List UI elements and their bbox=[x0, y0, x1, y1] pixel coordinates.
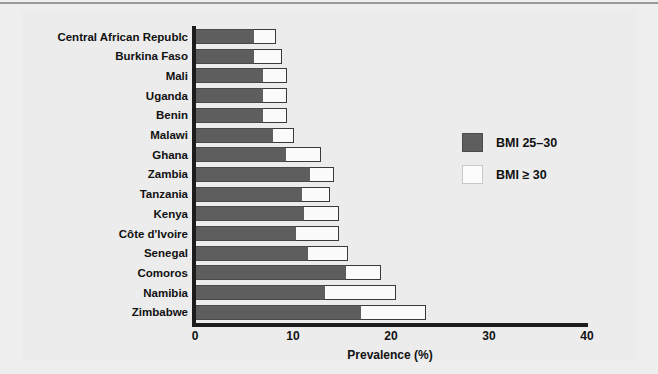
bar-row bbox=[196, 167, 334, 182]
bar-segment-bmi-over-30 bbox=[296, 226, 339, 241]
legend-label-bmi-25-30: BMI 25–30 bbox=[496, 136, 557, 150]
legend-label-bmi-over-30: BMI ≥ 30 bbox=[496, 168, 547, 182]
legend-swatch-icon-light bbox=[462, 165, 483, 184]
y-axis-category-label-text: Malawi bbox=[150, 129, 188, 141]
bar-row bbox=[196, 68, 287, 83]
y-axis-category-label-text: Zimbabwe bbox=[132, 306, 188, 318]
y-axis-category-label: Malawi bbox=[14, 128, 188, 143]
y-axis-category-label: Mali bbox=[14, 68, 188, 83]
bar-row bbox=[196, 49, 282, 64]
bar-segment-bmi-over-30 bbox=[310, 167, 335, 182]
bar-row bbox=[196, 147, 321, 162]
bar-row bbox=[196, 29, 276, 44]
bar-segment-bmi-over-30 bbox=[263, 108, 288, 123]
x-axis-tick-label: 10 bbox=[286, 329, 299, 343]
chart-plot-area: Central African RepublcBurkina FasoMaliU… bbox=[0, 0, 658, 374]
bar-segment-bmi-over-30 bbox=[346, 265, 381, 280]
y-axis-category-label-text: Zambia bbox=[148, 168, 188, 180]
y-axis-category-label: Benin bbox=[14, 108, 188, 123]
bar-row bbox=[196, 128, 294, 143]
y-axis-category-label: Burkina Faso bbox=[14, 49, 188, 64]
bar-row bbox=[196, 108, 287, 123]
bar-segment-bmi-25-30 bbox=[196, 128, 273, 143]
y-axis-category-label-text: Burkina Faso bbox=[115, 50, 188, 62]
bar-segment-bmi-over-30 bbox=[273, 128, 294, 143]
y-axis-category-label: Uganda bbox=[14, 88, 188, 103]
bar-segment-bmi-over-30 bbox=[254, 49, 282, 64]
y-axis-category-label-text: Kenya bbox=[153, 208, 188, 220]
y-axis-category-label-text: Uganda bbox=[146, 90, 188, 102]
bar-row bbox=[196, 226, 339, 241]
bar-segment-bmi-25-30 bbox=[196, 305, 361, 320]
legend-item-bmi-over-30: BMI ≥ 30 bbox=[462, 165, 557, 184]
y-axis-category-label-text: Tanzania bbox=[140, 188, 188, 200]
x-axis-tick-label: 40 bbox=[580, 329, 593, 343]
y-axis-category-label-text: Senegal bbox=[144, 247, 188, 259]
y-axis-category-label-text: Namibia bbox=[143, 287, 188, 299]
y-axis-category-label: Central African Republc bbox=[14, 29, 188, 44]
bar-segment-bmi-25-30 bbox=[196, 147, 286, 162]
bar-row bbox=[196, 285, 396, 300]
bar-segment-bmi-25-30 bbox=[196, 29, 254, 44]
legend-item-bmi-25-30: BMI 25–30 bbox=[462, 133, 557, 152]
y-axis-category-label: Namibia bbox=[14, 285, 188, 300]
bar-row bbox=[196, 305, 426, 320]
bar-segment-bmi-25-30 bbox=[196, 108, 263, 123]
bar-segment-bmi-25-30 bbox=[196, 285, 325, 300]
bar-segment-bmi-25-30 bbox=[196, 49, 254, 64]
y-axis-category-label-text: Central African Republc bbox=[57, 31, 188, 43]
bar-segment-bmi-25-30 bbox=[196, 68, 263, 83]
x-axis-tick-label: 20 bbox=[384, 329, 397, 343]
bar-segment-bmi-25-30 bbox=[196, 167, 310, 182]
bar-row bbox=[196, 88, 287, 103]
bar-segment-bmi-over-30 bbox=[263, 88, 288, 103]
y-axis-category-label: Ghana bbox=[14, 147, 188, 162]
y-axis-category-label-text: Côte d'Ivoire bbox=[119, 228, 188, 240]
x-axis-tick-label: 30 bbox=[482, 329, 495, 343]
bar-row bbox=[196, 265, 381, 280]
x-axis-title: Prevalence (%) bbox=[347, 348, 432, 362]
bar-row bbox=[196, 187, 330, 202]
y-axis-category-label: Côte d'Ivoire bbox=[14, 226, 188, 241]
legend-swatch-icon-dark bbox=[462, 133, 483, 152]
bar-segment-bmi-25-30 bbox=[196, 206, 304, 221]
y-axis-category-label: Senegal bbox=[14, 246, 188, 261]
bar-segment-bmi-25-30 bbox=[196, 246, 308, 261]
y-axis-category-label-text: Benin bbox=[156, 109, 188, 121]
y-axis-category-label: Kenya bbox=[14, 206, 188, 221]
figure-container: Central African RepublcBurkina FasoMaliU… bbox=[0, 0, 658, 374]
bar-segment-bmi-over-30 bbox=[254, 29, 277, 44]
bar-segment-bmi-25-30 bbox=[196, 265, 346, 280]
y-axis-category-label: Zambia bbox=[14, 167, 188, 182]
bar-segment-bmi-over-30 bbox=[325, 285, 396, 300]
bar-segment-bmi-25-30 bbox=[196, 226, 296, 241]
y-axis-category-label-text: Mali bbox=[166, 70, 188, 82]
bar-segment-bmi-over-30 bbox=[302, 187, 330, 202]
bar-row bbox=[196, 206, 339, 221]
bar-segment-bmi-25-30 bbox=[196, 88, 263, 103]
x-axis-line bbox=[192, 323, 588, 327]
bar-segment-bmi-over-30 bbox=[304, 206, 339, 221]
y-axis-category-label-text: Ghana bbox=[152, 149, 188, 161]
chart-legend: BMI 25–30 BMI ≥ 30 bbox=[462, 133, 557, 197]
bar-segment-bmi-over-30 bbox=[361, 305, 427, 320]
bar-segment-bmi-over-30 bbox=[308, 246, 348, 261]
x-axis-tick-label: 0 bbox=[192, 329, 199, 343]
y-axis-category-label: Tanzania bbox=[14, 187, 188, 202]
y-axis-category-label-text: Comoros bbox=[138, 267, 188, 279]
y-axis-category-label: Comoros bbox=[14, 265, 188, 280]
y-axis-category-label: Zimbabwe bbox=[14, 305, 188, 320]
bar-segment-bmi-over-30 bbox=[286, 147, 321, 162]
bar-segment-bmi-over-30 bbox=[263, 68, 288, 83]
bar-row bbox=[196, 246, 348, 261]
bar-segment-bmi-25-30 bbox=[196, 187, 302, 202]
